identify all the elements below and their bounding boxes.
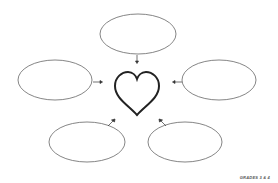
bubble-map-diagram bbox=[0, 0, 278, 183]
grade-label: GRADES 3 & 4 bbox=[240, 175, 270, 180]
bubble-left[interactable] bbox=[18, 60, 92, 100]
bubble-bottom-left[interactable] bbox=[49, 122, 125, 162]
heart-icon bbox=[115, 72, 159, 115]
bubble-bottom-right[interactable] bbox=[148, 122, 222, 162]
bubble-right[interactable] bbox=[182, 60, 256, 100]
bubble-top[interactable] bbox=[100, 14, 176, 54]
